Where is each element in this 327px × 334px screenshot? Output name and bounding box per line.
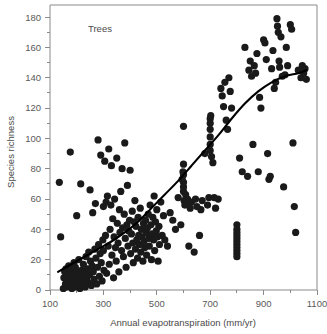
data-point (277, 33, 284, 40)
data-point (220, 103, 227, 110)
data-point (217, 85, 224, 92)
data-point (264, 150, 271, 157)
data-point (86, 186, 93, 193)
data-point (280, 183, 287, 190)
data-point (251, 62, 258, 69)
x-axis-title: Annual evapotranspiration (mm/yr) (110, 317, 256, 328)
data-point (191, 249, 198, 256)
data-point (271, 85, 278, 92)
x-tick-label: 900 (256, 298, 272, 309)
data-point (104, 192, 111, 199)
y-tick-label: 60 (30, 193, 41, 204)
data-point (97, 151, 104, 158)
data-point (167, 209, 174, 216)
scatter-plot: 1003005007009001100 02040608010012014016… (0, 0, 327, 334)
data-point (283, 44, 290, 51)
x-tick-label: 100 (42, 298, 58, 309)
data-point (196, 232, 203, 239)
data-point (103, 270, 110, 277)
y-tick-label: 40 (30, 224, 41, 235)
data-point (236, 155, 243, 162)
data-point (276, 64, 283, 71)
data-point (209, 159, 216, 166)
data-point (292, 229, 299, 236)
data-point (192, 195, 199, 202)
x-tick-label: 700 (202, 298, 218, 309)
plot-background (50, 5, 317, 290)
data-point (169, 217, 176, 224)
data-point (118, 247, 125, 254)
data-point (139, 258, 146, 265)
y-tick-label: 120 (25, 102, 41, 113)
data-point (249, 141, 256, 148)
data-point (106, 261, 113, 268)
data-point (122, 235, 129, 242)
data-point (117, 188, 124, 195)
data-point (197, 206, 204, 213)
data-point (137, 205, 144, 212)
data-point (244, 173, 251, 180)
data-point (113, 155, 120, 162)
data-point (106, 226, 113, 233)
y-tick-label: 180 (25, 12, 41, 23)
data-point (98, 277, 105, 284)
data-point (228, 104, 235, 111)
data-point (180, 123, 187, 130)
data-point (107, 202, 114, 209)
data-point (155, 223, 162, 230)
data-point (233, 253, 240, 260)
data-point (122, 264, 129, 271)
data-point (207, 126, 214, 133)
data-point (257, 104, 264, 111)
data-point (204, 202, 211, 209)
data-point (225, 74, 232, 81)
data-point (241, 44, 248, 51)
data-point (151, 192, 158, 199)
y-tick-label: 160 (25, 42, 41, 53)
data-point (215, 195, 222, 202)
y-tick-label: 20 (30, 254, 41, 265)
y-tick-label: 100 (25, 133, 41, 144)
data-point (105, 145, 112, 152)
data-point (289, 139, 296, 146)
data-point (121, 211, 128, 218)
data-point (212, 205, 219, 212)
data-point (73, 212, 80, 219)
data-point (124, 182, 131, 189)
data-point (148, 256, 155, 263)
data-point (261, 39, 268, 46)
data-point (252, 70, 259, 77)
data-point (284, 62, 291, 69)
data-point (185, 242, 192, 249)
panel-label: Trees (88, 23, 112, 34)
data-point (177, 221, 184, 228)
data-point (180, 161, 187, 168)
data-point (94, 136, 101, 143)
data-point (267, 173, 274, 180)
y-axis-tick-labels: 020406080100120140160180 (25, 12, 41, 296)
data-point (153, 206, 160, 213)
data-point (102, 232, 109, 239)
data-point (131, 197, 138, 204)
data-point (114, 239, 121, 246)
data-point (256, 94, 263, 101)
data-point (263, 56, 270, 63)
data-point (219, 92, 226, 99)
data-point (127, 167, 134, 174)
data-point (227, 88, 234, 95)
data-point (98, 259, 105, 266)
data-point (67, 148, 74, 155)
data-point (108, 252, 115, 259)
y-tick-label: 140 (25, 72, 41, 83)
data-point (92, 200, 99, 207)
data-point (164, 242, 171, 249)
data-point (207, 133, 214, 140)
y-tick-label: 80 (30, 163, 41, 174)
data-point (101, 158, 108, 165)
data-point (255, 168, 262, 175)
data-point (208, 153, 215, 160)
data-point (207, 112, 214, 119)
data-point (160, 212, 167, 219)
y-tick-label: 0 (36, 284, 41, 295)
data-point (151, 247, 158, 254)
